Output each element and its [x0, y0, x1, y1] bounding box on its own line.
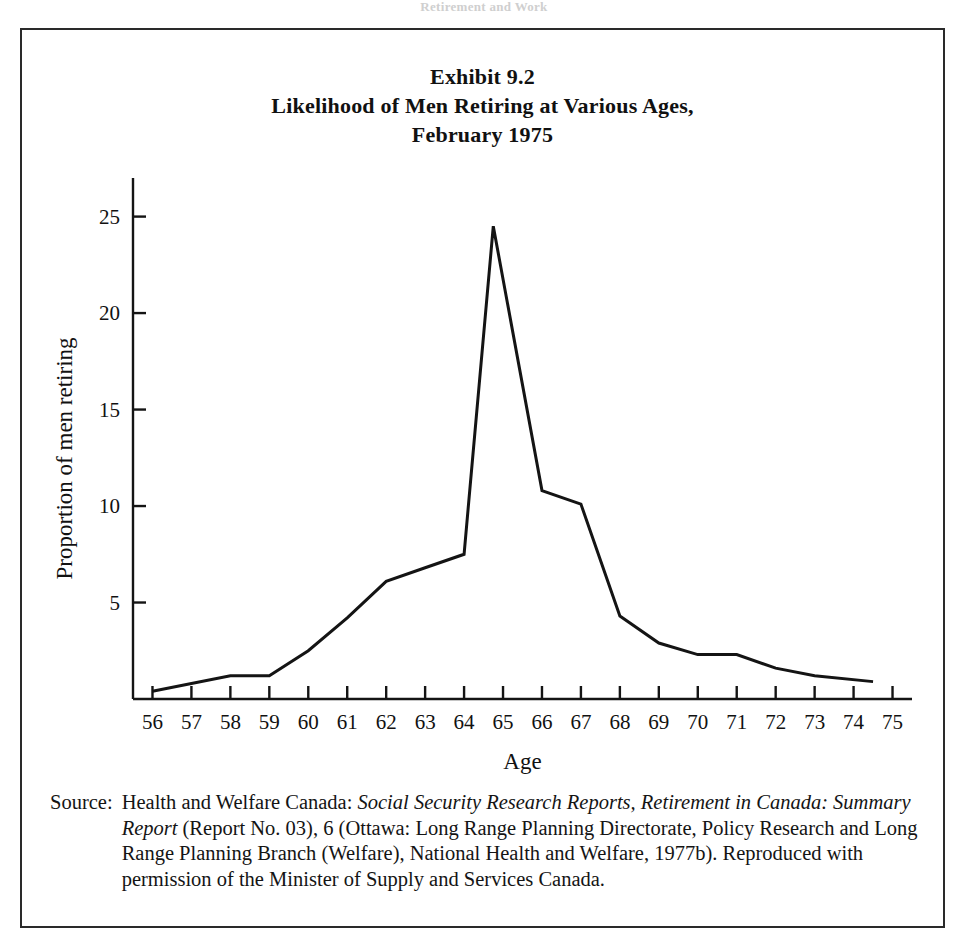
retirement-proportion-line	[152, 226, 873, 691]
y-axis-title: Proportion of men retiring	[52, 337, 77, 580]
y-tick-label: 10	[99, 494, 120, 518]
x-tick-label: 71	[726, 710, 747, 734]
x-tick-label: 61	[337, 710, 358, 734]
x-tick-label: 58	[220, 710, 241, 734]
x-tick-label: 67	[570, 710, 591, 734]
x-tick-label: 56	[142, 710, 163, 734]
data-series-retirement	[152, 226, 873, 691]
x-tick-label: 72	[765, 710, 786, 734]
y-axis: 510152025	[99, 178, 146, 699]
x-axis-title: Age	[503, 749, 541, 774]
x-tick-label: 68	[609, 710, 630, 734]
x-tick-label: 62	[376, 710, 397, 734]
x-tick-label: 70	[687, 710, 708, 734]
source-part-1: Health and Welfare Canada:	[122, 791, 358, 813]
y-tick-label: 5	[110, 591, 121, 615]
source-note: Source: Health and Welfare Canada: Socia…	[50, 790, 930, 892]
y-tick-label: 20	[99, 301, 120, 325]
x-tick-label: 60	[298, 710, 319, 734]
source-text: Health and Welfare Canada: Social Securi…	[122, 790, 930, 892]
y-tick-label: 15	[99, 398, 120, 422]
x-tick-label: 57	[181, 710, 202, 734]
x-tick-label: 73	[804, 710, 825, 734]
exhibit-page: Retirement and Work Exhibit 9.2 Likeliho…	[0, 0, 968, 938]
x-tick-label: 65	[493, 710, 514, 734]
y-tick-label: 25	[99, 205, 120, 229]
x-tick-label: 64	[454, 710, 476, 734]
x-tick-label: 66	[531, 710, 552, 734]
x-tick-label: 69	[648, 710, 669, 734]
figure-frame: Exhibit 9.2 Likelihood of Men Retiring a…	[20, 28, 945, 928]
x-tick-label: 74	[843, 710, 865, 734]
x-tick-label: 59	[259, 710, 280, 734]
x-tick-label: 75	[882, 710, 903, 734]
x-axis: 5657585960616263646566676869707172737475	[133, 686, 912, 734]
running-head: Retirement and Work	[0, 0, 968, 14]
source-part-2: (Report No. 03), 6 (Ottawa: Long Range P…	[122, 817, 918, 890]
x-tick-label: 63	[415, 710, 436, 734]
source-label: Source:	[50, 790, 122, 816]
